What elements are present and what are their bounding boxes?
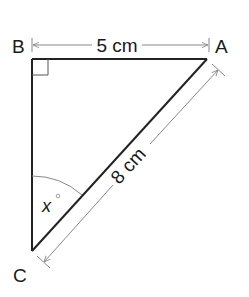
angle-arc — [32, 176, 82, 195]
right-angle-marker — [32, 59, 48, 75]
triangle — [32, 59, 207, 251]
vertex-label-c: C — [13, 265, 27, 286]
vertex-label-a: A — [215, 36, 228, 57]
degree-symbol — [56, 194, 60, 198]
triangle-diagram: B A C 5 cm 8 cm x — [0, 0, 249, 297]
side-ac — [32, 59, 207, 251]
vertex-label-b: B — [12, 36, 25, 57]
side-ac-label: 8 cm — [107, 143, 150, 188]
side-ab-label: 5 cm — [96, 35, 137, 56]
angle-label: x — [41, 196, 52, 216]
